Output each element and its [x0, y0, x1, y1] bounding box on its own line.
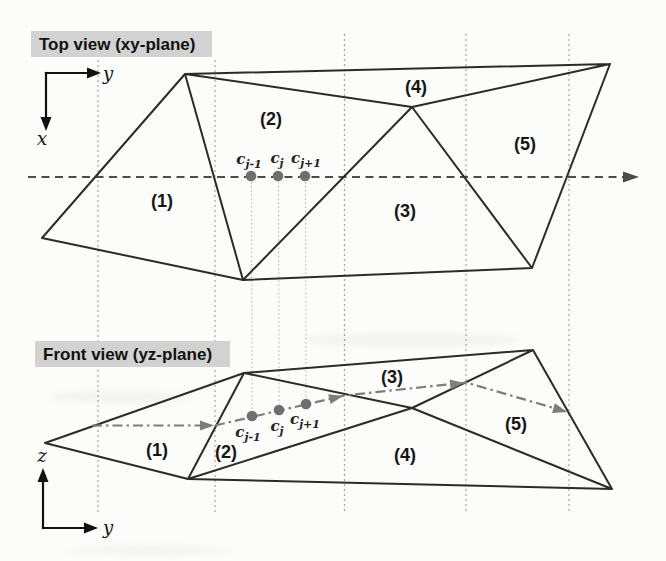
top-view-triangle-label-3: (3)	[394, 201, 416, 221]
y-axis-label: y	[102, 517, 114, 538]
top-view-axes: y x	[37, 63, 114, 149]
control-point-dot	[246, 171, 257, 182]
scan-noise	[65, 546, 235, 556]
top-view-triangulation-edges	[42, 64, 610, 280]
control-point-dot	[273, 171, 284, 182]
control-point-dot	[300, 171, 311, 182]
front-view-triangle-label-1: (1)	[146, 440, 168, 460]
top-view-triangle-label-5: (5)	[514, 134, 536, 154]
control-point-subscript: j-1	[242, 431, 260, 444]
scan-noise	[300, 332, 520, 348]
control-point-subscript: j-1	[243, 158, 261, 171]
y-axis-arrowhead-icon	[84, 523, 98, 534]
x-axis-label: x	[37, 128, 47, 149]
top-view-title: Top view (xy-plane)	[39, 35, 196, 54]
front-view-triangle-label-2: (2)	[215, 442, 237, 462]
front-view-triangle-label-3: (3)	[381, 367, 403, 387]
top-view-triangle-label-1: (1)	[151, 191, 173, 211]
front-view: cj-1 cj cj+1 (1) (2) (3) (4) (5) Front v…	[35, 341, 612, 538]
y-axis-label: y	[102, 63, 114, 84]
control-point-base: c	[291, 149, 300, 167]
control-point-base: c	[236, 150, 245, 168]
control-point-base: c	[270, 417, 279, 435]
front-view-title: Front view (yz-plane)	[43, 345, 212, 364]
front-view-axes: z y	[36, 445, 114, 538]
control-point-dot	[247, 411, 258, 422]
surface-profile-line	[92, 383, 566, 426]
figure-canvas: cj-1 cj cj+1 (1) (2) (3) (4) (5) Top vie…	[0, 0, 666, 561]
top-view-triangle-label-2: (2)	[260, 109, 282, 129]
profile-arrowhead-icon	[200, 421, 214, 431]
triangulated-surface-diagram: cj-1 cj cj+1 (1) (2) (3) (4) (5) Top vie…	[0, 0, 666, 561]
control-point-subscript: j+1	[297, 418, 320, 431]
profile-arrowhead-icon	[328, 394, 343, 404]
control-point-label: cj	[270, 417, 283, 438]
front-view-triangle-label-4: (4)	[394, 445, 416, 465]
scan-line-arrowhead-icon	[623, 172, 639, 183]
control-point-label: cj-1	[236, 150, 261, 171]
z-axis-label: z	[36, 445, 47, 466]
z-axis-arrowhead-icon	[38, 468, 49, 482]
control-point-subscript: j+1	[298, 157, 321, 170]
control-point-base: c	[270, 149, 279, 167]
front-view-triangle-label-5: (5)	[505, 414, 527, 434]
top-view: cj-1 cj cj+1 (1) (2) (3) (4) (5) Top vie…	[28, 31, 639, 280]
control-point-label: cj+1	[291, 149, 321, 170]
control-point-dot	[274, 405, 285, 416]
y-axis-arrowhead-icon	[87, 68, 101, 79]
control-point-base: c	[290, 410, 299, 428]
control-point-label: cj-1	[235, 423, 260, 444]
connector-line	[252, 182, 253, 410]
control-point-label: cj	[270, 149, 283, 170]
control-point-label: cj+1	[290, 410, 320, 431]
top-view-triangle-label-4: (4)	[405, 77, 427, 97]
scan-noise	[50, 390, 190, 404]
control-point-base: c	[235, 423, 244, 441]
control-point-dot	[301, 399, 312, 410]
